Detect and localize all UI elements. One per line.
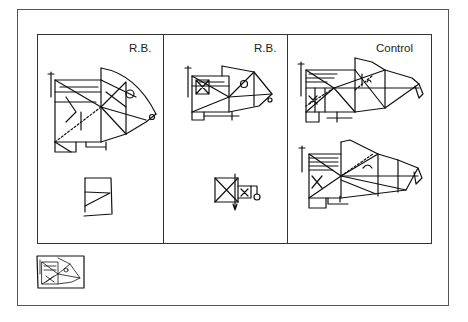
panel-3-copy-drawing (297, 56, 427, 124)
panel-2-label: R.B. (254, 42, 276, 54)
panel-2-recall-drawing (213, 172, 263, 214)
panel-divider-2 (287, 35, 288, 243)
panel-1-copy-drawing (46, 62, 156, 152)
panel-2-copy-drawing (184, 62, 274, 124)
panel-1-recall-drawing (82, 176, 114, 218)
panel-3-label: Control (376, 42, 413, 54)
panel-1-label: R.B. (129, 42, 151, 54)
panel-divider-1 (163, 35, 164, 243)
reference-thumbnail (36, 254, 86, 290)
panel-3-recall-drawing (298, 140, 426, 212)
